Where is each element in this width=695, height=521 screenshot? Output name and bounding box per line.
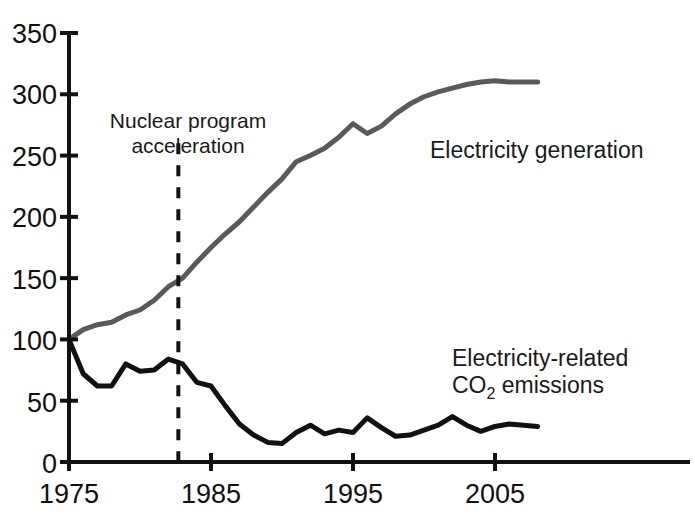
series-label-co2-line-2: CO2 emissions — [452, 372, 604, 402]
y-tick-label-300: 300 — [12, 80, 57, 110]
y-tick-label-0: 0 — [42, 449, 57, 479]
annotation-text-group: Nuclear program acceleration — [110, 109, 266, 157]
y-tick-label-200: 200 — [12, 203, 57, 233]
y-tick-label-50: 50 — [27, 388, 57, 418]
co2-suffix: emissions — [495, 372, 604, 398]
annotation-line-1: Nuclear program — [110, 109, 266, 132]
y-tick-label-150: 150 — [12, 265, 57, 295]
co2-subscript: 2 — [487, 385, 496, 402]
x-axis-tick-labels: 1975 1985 1995 2005 — [39, 479, 525, 509]
line-chart: 350 300 250 200 150 100 50 0 1975 1985 1… — [0, 0, 695, 521]
series-label-co2-line-1: Electricity-related — [452, 345, 628, 371]
x-tick-label-1995: 1995 — [323, 479, 383, 509]
x-tick-label-1975: 1975 — [39, 479, 99, 509]
annotation-line-2: acceleration — [131, 134, 244, 157]
axes-layer — [60, 33, 690, 471]
x-tick-label-2005: 2005 — [465, 479, 525, 509]
y-tick-label-250: 250 — [12, 142, 57, 172]
series-inline-labels: Electricity generation Electricity-relat… — [430, 137, 644, 402]
x-tick-label-1985: 1985 — [181, 479, 241, 509]
chart-container: 350 300 250 200 150 100 50 0 1975 1985 1… — [0, 0, 695, 521]
y-tick-label-350: 350 — [12, 19, 57, 49]
y-tick-label-100: 100 — [12, 326, 57, 356]
series-label-electricity-generation: Electricity generation — [430, 137, 644, 163]
y-axis-tick-labels: 350 300 250 200 150 100 50 0 — [12, 19, 57, 479]
co2-prefix: CO — [452, 372, 487, 398]
